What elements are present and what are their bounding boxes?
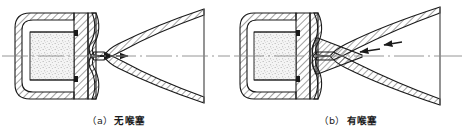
grain-retainer-bottom-a <box>74 76 78 82</box>
flow-arrow-2-b <box>360 49 380 52</box>
flow-arrow-1-b <box>384 42 402 45</box>
diagram-panel-a: （a）无喉塞 <box>0 0 232 137</box>
nozzle-wall-upper-a <box>89 9 204 60</box>
caption-text-b: 有喉塞 <box>347 115 378 126</box>
caption-text-a: 无喉塞 <box>114 115 145 126</box>
caption-panel-b: （b）有喉塞 <box>232 114 464 127</box>
rocket-motor-diagram-a <box>0 0 232 115</box>
caption-label-b: （b） <box>319 115 346 126</box>
caption-label-a: （a） <box>87 115 114 126</box>
rocket-motor-diagram-b <box>232 0 464 115</box>
nozzle-wall-lower-a <box>89 52 204 103</box>
caption-panel-a: （a）无喉塞 <box>0 114 232 127</box>
grain-retainer-top-a <box>74 30 78 36</box>
grain-retainer-top-b <box>296 30 300 36</box>
figure-root: （a）无喉塞 <box>0 0 464 137</box>
diagram-panel-b: （b）有喉塞 <box>232 0 464 137</box>
grain-retainer-bottom-b <box>296 76 300 82</box>
